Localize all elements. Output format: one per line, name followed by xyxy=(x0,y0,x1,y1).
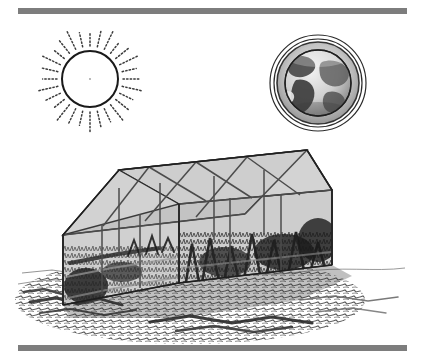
sun-ray xyxy=(122,86,142,90)
sun-ray xyxy=(79,111,82,125)
bottom-horizontal-rule xyxy=(18,345,407,351)
greenhouse-effect-figure xyxy=(0,0,423,363)
sun-ray xyxy=(53,100,64,109)
sun-ray xyxy=(97,30,101,47)
sun-ray xyxy=(79,33,82,47)
sun-ray xyxy=(45,93,61,100)
sun-ray xyxy=(104,31,113,49)
sun-ray xyxy=(59,40,70,53)
sun-ray xyxy=(42,56,60,65)
sun-ray xyxy=(116,48,129,59)
top-horizontal-rule xyxy=(18,8,407,14)
sun xyxy=(38,30,141,132)
sun-ray xyxy=(122,68,136,71)
earth-globe xyxy=(270,35,366,131)
sun-ray xyxy=(120,56,138,65)
sun-ray xyxy=(97,111,101,128)
sun-ray xyxy=(67,31,76,49)
sun-ray xyxy=(53,49,64,58)
sun-ray xyxy=(57,105,69,121)
figure-canvas xyxy=(0,0,423,363)
sun-ray xyxy=(111,42,120,53)
sun-ray xyxy=(38,86,58,90)
sun-ray xyxy=(104,109,110,122)
sun-ray xyxy=(111,105,123,121)
sun-ray xyxy=(120,93,133,99)
sun-ray xyxy=(68,109,75,125)
sun-ray xyxy=(116,100,129,111)
sun-ray xyxy=(41,68,58,72)
sun-center-dot xyxy=(89,78,91,80)
